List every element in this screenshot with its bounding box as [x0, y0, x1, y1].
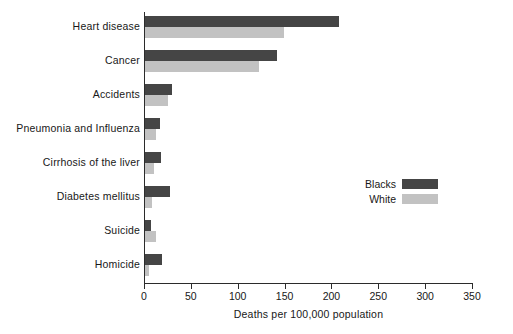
x-tick — [144, 284, 145, 289]
bar-blacks — [145, 50, 277, 61]
x-tick — [285, 284, 286, 289]
legend-label-white: White — [352, 193, 396, 205]
bar-group: Accidents — [144, 82, 472, 116]
x-tick — [191, 284, 192, 289]
bar-group: Cancer — [144, 48, 472, 82]
bar-white — [145, 95, 168, 106]
x-tick — [425, 284, 426, 289]
category-label: Cirrhosis of the liver — [0, 156, 144, 168]
category-label: Homicide — [0, 258, 144, 270]
x-tick-label: 300 — [405, 290, 445, 302]
x-tick — [331, 284, 332, 289]
bar-white — [145, 231, 156, 242]
bar-white — [145, 27, 284, 38]
bar-white — [145, 163, 154, 174]
bar-blacks — [145, 152, 161, 163]
x-tick-label: 150 — [265, 290, 305, 302]
bar-blacks — [145, 186, 170, 197]
bar-group: Suicide — [144, 218, 472, 252]
bar-white — [145, 129, 156, 140]
chart-legend: Blacks White — [352, 174, 438, 204]
category-label: Suicide — [0, 224, 144, 236]
x-tick — [472, 284, 473, 289]
bar-chart: Heart diseaseCancerAccidentsPneumonia an… — [0, 0, 513, 334]
category-label: Accidents — [0, 88, 144, 100]
category-label: Cancer — [0, 54, 144, 66]
x-tick-label: 350 — [452, 290, 492, 302]
category-label: Diabetes mellitus — [0, 190, 144, 202]
bar-blacks — [145, 254, 162, 265]
x-tick-label: 200 — [311, 290, 351, 302]
legend-swatch-blacks — [402, 179, 438, 189]
bar-group: Heart disease — [144, 14, 472, 48]
bar-blacks — [145, 16, 339, 27]
legend-item-white: White — [352, 189, 438, 204]
category-label: Heart disease — [0, 20, 144, 32]
legend-label-blacks: Blacks — [352, 178, 396, 190]
bar-blacks — [145, 84, 172, 95]
x-axis-line — [144, 283, 473, 284]
bar-blacks — [145, 118, 160, 129]
x-tick-label: 250 — [358, 290, 398, 302]
plot-area: Heart diseaseCancerAccidentsPneumonia an… — [144, 12, 472, 284]
legend-item-blacks: Blacks — [352, 174, 438, 189]
x-tick-label: 0 — [124, 290, 164, 302]
bar-white — [145, 197, 152, 208]
x-axis-title: Deaths per 100,000 population — [144, 308, 473, 320]
x-tick — [378, 284, 379, 289]
bar-group: Homicide — [144, 252, 472, 286]
x-tick — [238, 284, 239, 289]
legend-swatch-white — [402, 194, 438, 204]
bar-group: Pneumonia and Influenza — [144, 116, 472, 150]
y-axis-line — [144, 12, 145, 284]
bar-blacks — [145, 220, 151, 231]
x-tick-label: 100 — [218, 290, 258, 302]
bar-white — [145, 265, 149, 276]
x-tick-label: 50 — [171, 290, 211, 302]
category-label: Pneumonia and Influenza — [0, 122, 144, 134]
bar-white — [145, 61, 259, 72]
